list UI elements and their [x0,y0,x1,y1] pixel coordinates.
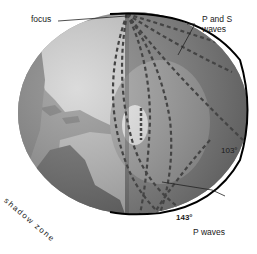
label-p-and-s-waves-1: P and S [202,15,232,24]
label-p-and-s-waves-2: waves [202,25,226,34]
label-angle-103: 103° [221,146,238,155]
earth-cutaway-diagram: focus P and S waves 103° 143° P waves sh… [0,0,257,254]
label-focus: focus [31,15,51,24]
label-p-waves: P waves [193,228,225,237]
label-angle-143: 143° [176,213,193,222]
